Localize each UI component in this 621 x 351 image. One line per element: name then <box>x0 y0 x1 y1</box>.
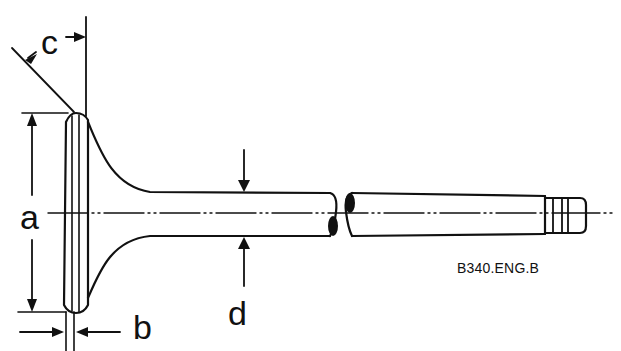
stem-tip <box>545 196 586 234</box>
valve-diagram: a b c d B340.ENG.B <box>0 0 621 351</box>
valve-drawing <box>0 0 621 351</box>
dimension-label-b: b <box>133 310 152 344</box>
dimension-label-d: d <box>228 296 247 330</box>
dimension-label-c: c <box>41 25 58 59</box>
break-mark-right <box>345 193 355 213</box>
stem-right-top <box>352 193 545 196</box>
head-fillet-bottom <box>88 236 330 298</box>
stem-right-bottom <box>352 234 545 236</box>
reference-code: B340.ENG.B <box>457 261 539 275</box>
head-fillet-top <box>88 122 330 193</box>
dimension-label-a: a <box>20 200 39 234</box>
break-mark-left <box>328 216 338 236</box>
